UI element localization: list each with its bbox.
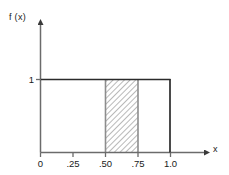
y-axis-title: f (x): [9, 13, 26, 22]
shaded-region: [106, 80, 139, 153]
x-tick-label-0-25: .25: [66, 159, 79, 169]
x-tick-label-0-50: .50: [99, 159, 112, 169]
y-tick-label-1: 1: [29, 75, 34, 85]
x-tick-label-0: 0: [38, 159, 43, 169]
x-tick-label-0-75: .75: [131, 159, 144, 169]
x-axis-title: x: [213, 145, 218, 154]
x-tick-label-1-0: 1.0: [164, 159, 177, 169]
plot-canvas: [0, 0, 229, 175]
uniform-distribution-figure: f (x) x 1 0 .25 .50 .75 1.0: [0, 0, 229, 175]
